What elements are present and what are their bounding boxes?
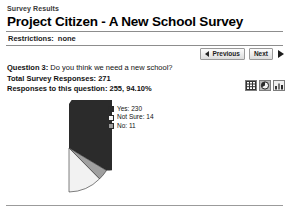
question-text: Do you think we need a new school? bbox=[50, 63, 172, 72]
legend-label-not-sure: Not Sure: 14 bbox=[117, 113, 154, 121]
restrictions-bar: Restrictions:none bbox=[6, 32, 283, 45]
question-summary: Question 3: Do you think we need a new s… bbox=[7, 63, 173, 95]
pie-chart-view-icon[interactable] bbox=[259, 80, 271, 91]
footer-divider bbox=[6, 205, 283, 206]
table-view-icon[interactable] bbox=[245, 80, 257, 91]
legend-label-no: No: 11 bbox=[117, 122, 136, 130]
pagination-nav: Previous Next bbox=[200, 48, 284, 60]
question-line: Question 3: Do you think we need a new s… bbox=[7, 63, 173, 74]
next-button[interactable]: Next bbox=[249, 48, 273, 60]
legend-item: No: 11 bbox=[108, 122, 154, 130]
total-responses-line: Total Survey Responses: 271 bbox=[7, 74, 173, 85]
legend-label-yes: Yes: 230 bbox=[117, 105, 142, 113]
legend-item: Yes: 230 bbox=[108, 105, 154, 113]
previous-button-label: Previous bbox=[212, 50, 239, 58]
page-title: Project Citizen - A New School Survey bbox=[7, 14, 283, 29]
view-toggle-group bbox=[245, 80, 285, 91]
previous-button[interactable]: Previous bbox=[200, 48, 244, 60]
question-responses-line: Responses to this question: 255, 94.10% bbox=[7, 84, 173, 95]
total-responses-label: Total Survey Responses: bbox=[7, 74, 96, 83]
question-responses-value: 255, 94.10% bbox=[110, 84, 152, 93]
legend-swatch-no bbox=[108, 123, 114, 129]
chart-area: Yes: 230 Not Sure: 14 No: 11 bbox=[0, 98, 289, 198]
question-responses-label: Responses to this question: bbox=[7, 84, 107, 93]
chart-legend: Yes: 230 Not Sure: 14 No: 11 bbox=[108, 105, 154, 130]
legend-swatch-yes bbox=[108, 106, 114, 112]
bar-chart-view-icon[interactable] bbox=[273, 80, 285, 91]
restrictions-divider bbox=[6, 45, 283, 46]
page-kicker: Survey Results bbox=[7, 4, 283, 13]
triangle-right-icon[interactable] bbox=[278, 50, 284, 58]
restrictions-value: none bbox=[58, 34, 76, 43]
survey-results-page: Survey Results Project Citizen - A New S… bbox=[0, 0, 289, 214]
total-responses-value: 271 bbox=[98, 74, 111, 83]
legend-item: Not Sure: 14 bbox=[108, 113, 154, 121]
next-button-label: Next bbox=[254, 50, 268, 58]
restrictions-label: Restrictions: bbox=[8, 34, 54, 43]
legend-swatch-not-sure bbox=[108, 115, 114, 121]
triangle-left-icon bbox=[205, 51, 209, 57]
pie-chart bbox=[26, 100, 112, 200]
question-number: Question 3: bbox=[7, 63, 48, 72]
